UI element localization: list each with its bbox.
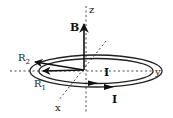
current-arrowhead-inner [88, 81, 98, 87]
z-axis-label: z [89, 4, 94, 15]
b-field-label: B [70, 21, 79, 34]
current-label-outer: I [112, 93, 117, 106]
current-label-inner: I [104, 66, 109, 79]
r2-label: R2 [18, 52, 30, 66]
r1-label-sub: 1 [42, 84, 46, 92]
r1-vector [43, 70, 84, 71]
y-axis-label: y [154, 66, 161, 77]
current-arrowhead-outer [104, 84, 114, 90]
x-axis-label: x [55, 102, 61, 113]
r2-label-sub: 2 [26, 58, 30, 66]
r1-label: R1 [34, 78, 46, 92]
annular-loop-diagram: z B y x R2 R1 I I [0, 0, 173, 118]
